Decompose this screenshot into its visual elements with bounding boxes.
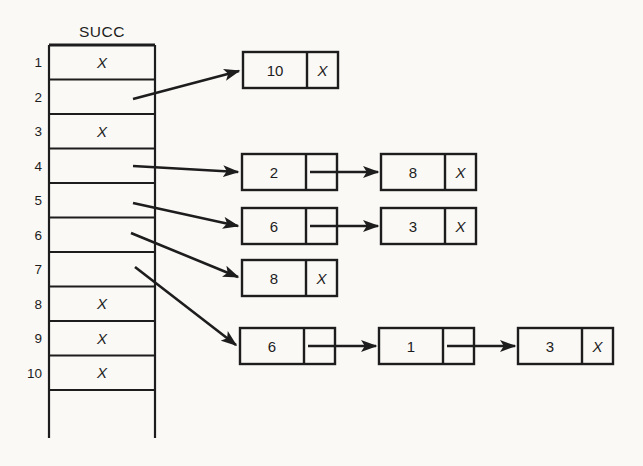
node-list-7-2-next-null: X xyxy=(591,338,603,355)
node-list-4-0-value: 2 xyxy=(270,164,278,181)
diagram-stage: SUCC 1X23X45678X9X10X10X28X63X8X613X xyxy=(0,0,643,466)
node-list-5-1-next-null: X xyxy=(454,218,466,235)
array-cell-value-10: X xyxy=(96,364,108,381)
succ-linked-list-diagram: SUCC 1X23X45678X9X10X10X28X63X8X613X xyxy=(0,0,643,466)
array-title: SUCC xyxy=(79,23,125,40)
row-index-2: 2 xyxy=(34,90,42,105)
row-index-7: 7 xyxy=(34,262,42,277)
node-list-5-1-value: 3 xyxy=(409,218,417,235)
node-list-2-0-value: 10 xyxy=(267,62,284,79)
row-index-6: 6 xyxy=(34,228,42,243)
node-list-4-1-next-null: X xyxy=(454,164,466,181)
node-list-7-0-value: 6 xyxy=(268,338,276,355)
node-list-2-0-next-null: X xyxy=(316,62,328,79)
pointer-arrow-row-5 xyxy=(133,203,238,226)
array-cell-5 xyxy=(49,183,155,218)
row-index-10: 10 xyxy=(27,366,42,381)
row-index-8: 8 xyxy=(34,297,42,312)
array-cell-6 xyxy=(49,218,155,253)
node-list-6-0-value: 8 xyxy=(270,270,278,287)
array-cell-value-9: X xyxy=(96,330,108,347)
node-list-4-1-value: 8 xyxy=(409,164,417,181)
pointer-arrow-row-2 xyxy=(133,71,239,99)
row-index-9: 9 xyxy=(34,331,42,346)
node-list-5-0-value: 6 xyxy=(270,218,278,235)
pointer-arrow-row-6 xyxy=(131,233,238,277)
row-index-3: 3 xyxy=(34,124,42,139)
pointer-arrow-row-4 xyxy=(133,166,238,172)
node-list-6-0-next-null: X xyxy=(315,270,327,287)
array-cell-value-3: X xyxy=(96,123,108,140)
row-index-4: 4 xyxy=(34,159,42,174)
array-cell-value-8: X xyxy=(96,295,108,312)
node-list-7-1-value: 1 xyxy=(407,338,415,355)
node-list-7-2-value: 3 xyxy=(546,338,554,355)
array-cell-value-1: X xyxy=(96,54,108,71)
row-index-5: 5 xyxy=(34,193,42,208)
pointer-arrow-row-7 xyxy=(135,267,236,345)
row-index-1: 1 xyxy=(34,55,42,70)
